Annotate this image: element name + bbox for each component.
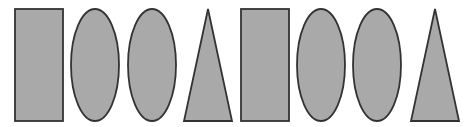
ellipse-1: [71, 9, 119, 121]
ellipse-3: [297, 9, 345, 121]
rectangle-2: [241, 9, 289, 121]
rectangle-1: [15, 9, 63, 121]
ellipse-4: [353, 9, 401, 121]
shape-sequence-diagram: [0, 0, 473, 127]
ellipse-2: [128, 9, 176, 121]
triangle-2: [411, 9, 459, 121]
triangle-1: [184, 9, 232, 121]
